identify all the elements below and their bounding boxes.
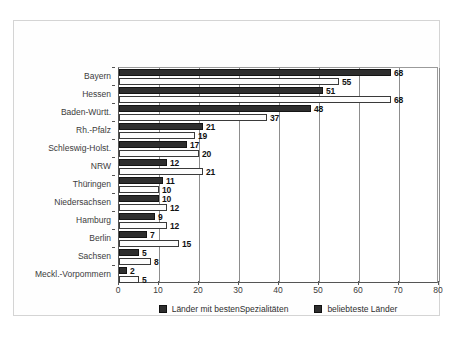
- bar-group: 912: [119, 212, 437, 230]
- bar-spezialitaeten: [119, 222, 167, 229]
- x-tick-label-10: 10: [153, 285, 162, 295]
- category-tick: [112, 193, 115, 194]
- value-axis-labels: 01020304050607080: [118, 285, 438, 299]
- category-tick: [112, 139, 115, 140]
- bar-value-label: 17: [190, 140, 199, 150]
- bar-spezialitaeten: [119, 96, 391, 103]
- bar-beliebteste: [119, 69, 391, 76]
- x-tick-10: [158, 281, 159, 285]
- bar-spezialitaeten: [119, 168, 203, 175]
- category-tick: [112, 121, 115, 122]
- bar-value-label: 21: [206, 122, 215, 132]
- category-label: Rh.-Pfalz: [76, 125, 111, 135]
- category-label: Baden-Württ.: [61, 107, 111, 117]
- bar-group: 2119: [119, 122, 437, 140]
- bar-beliebteste: [119, 141, 187, 148]
- category-label: Hessen: [82, 89, 111, 99]
- category-tick: [112, 103, 115, 104]
- legend-label: beliebteste Länder: [327, 304, 397, 314]
- chart-outer-frame: 6855516848372119172012211110101291271558…: [13, 20, 440, 316]
- legend-item-2: beliebteste Länder: [314, 304, 397, 314]
- bar-spezialitaeten: [119, 114, 267, 121]
- bar-beliebteste: [119, 213, 155, 220]
- x-tick-80: [438, 281, 439, 285]
- x-tick-60: [358, 281, 359, 285]
- bar-beliebteste: [119, 87, 323, 94]
- bar-spezialitaeten: [119, 186, 159, 193]
- chart-legend: Länder mit bestenSpezialitätenbeliebtest…: [118, 304, 438, 314]
- category-tick: [112, 67, 115, 68]
- bar-value-label: 12: [170, 203, 179, 213]
- bar-beliebteste: [119, 159, 167, 166]
- bar-spezialitaeten: [119, 78, 339, 85]
- legend-swatch-icon: [159, 305, 167, 313]
- bar-value-label: 55: [342, 77, 351, 87]
- bar-group: 5168: [119, 86, 437, 104]
- category-label: Niedersachsen: [54, 197, 111, 207]
- bar-group: 58: [119, 248, 437, 266]
- legend-label: Länder mit bestenSpezialitäten: [172, 304, 289, 314]
- x-tick-label-40: 40: [273, 285, 282, 295]
- x-tick-0: [118, 281, 119, 285]
- x-tick-label-0: 0: [116, 285, 121, 295]
- bar-group: 1720: [119, 140, 437, 158]
- bar-value-label: 9: [158, 212, 163, 222]
- bar-beliebteste: [119, 123, 203, 130]
- category-axis-labels: BayernHessenBaden-Württ.Rh.-PfalzSchlesw…: [14, 67, 115, 283]
- category-label: Hamburg: [76, 215, 111, 225]
- x-tick-label-80: 80: [433, 285, 442, 295]
- bar-spezialitaeten: [119, 240, 179, 247]
- bar-group: 1110: [119, 176, 437, 194]
- category-label: NRW: [91, 161, 111, 171]
- bar-value-label: 12: [170, 158, 179, 168]
- bar-value-label: 7: [150, 230, 155, 240]
- bar-value-label: 21: [206, 167, 215, 177]
- category-label: Sachsen: [78, 251, 111, 261]
- bar-rows: 6855516848372119172012211110101291271558…: [119, 68, 437, 282]
- category-tick: [112, 175, 115, 176]
- category-tick: [112, 247, 115, 248]
- category-tick: [112, 229, 115, 230]
- bar-beliebteste: [119, 231, 147, 238]
- bar-spezialitaeten: [119, 150, 199, 157]
- bar-beliebteste: [119, 195, 159, 202]
- plot-area: 6855516848372119172012211110101291271558…: [118, 67, 438, 283]
- bar-beliebteste: [119, 267, 127, 274]
- category-label: Bayern: [84, 71, 111, 81]
- bar-value-label: 2: [130, 266, 135, 276]
- bar-spezialitaeten: [119, 258, 151, 265]
- bar-beliebteste: [119, 249, 139, 256]
- category-tick: [112, 85, 115, 86]
- bar-group: 1012: [119, 194, 437, 212]
- bar-value-label: 68: [394, 95, 403, 105]
- bar-value-label: 20: [202, 149, 211, 159]
- bar-value-label: 15: [182, 239, 191, 249]
- bar-group: 6855: [119, 68, 437, 86]
- x-tick-50: [318, 281, 319, 285]
- legend-swatch-icon: [314, 305, 322, 313]
- bar-value-label: 51: [326, 86, 335, 96]
- bar-beliebteste: [119, 105, 311, 112]
- bar-group: 4837: [119, 104, 437, 122]
- bar-spezialitaeten: [119, 204, 167, 211]
- x-tick-70: [398, 281, 399, 285]
- bar-value-label: 5: [142, 248, 147, 258]
- bar-value-label: 48: [314, 104, 323, 114]
- bar-value-label: 37: [270, 113, 279, 123]
- x-tick-label-70: 70: [393, 285, 402, 295]
- bar-beliebteste: [119, 177, 163, 184]
- category-label: Schleswig-Holst.: [48, 143, 111, 153]
- category-tick: [112, 211, 115, 212]
- bar-group: 715: [119, 230, 437, 248]
- x-tick-20: [198, 281, 199, 285]
- bar-spezialitaeten: [119, 132, 195, 139]
- bar-value-label: 5: [142, 275, 147, 285]
- bar-spezialitaeten: [119, 276, 139, 283]
- bar-group: 1221: [119, 158, 437, 176]
- x-tick-40: [278, 281, 279, 285]
- category-tick: [112, 265, 115, 266]
- gridline-80: [439, 68, 440, 282]
- category-label: Berlin: [89, 233, 111, 243]
- bar-value-label: 68: [394, 68, 403, 78]
- x-tick-label-30: 30: [233, 285, 242, 295]
